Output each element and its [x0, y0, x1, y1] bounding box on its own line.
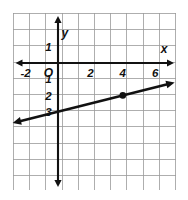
plotted-points [120, 92, 127, 99]
y-tick-label-below-1: 2 [44, 90, 52, 102]
coordinate-plane-svg: -22461123Oxy [0, 0, 188, 200]
origin-label: O [44, 66, 54, 80]
y-tick-label-below-2: 3 [45, 106, 52, 118]
data-point-marker [120, 92, 127, 99]
x-tick-label-3: 6 [152, 67, 159, 79]
y-axis-name: y [60, 26, 69, 40]
x-tick-label-1: 2 [86, 67, 94, 79]
x-tick-label-2: 4 [119, 67, 127, 79]
y-tick-label-above-0: 1 [45, 41, 51, 53]
x-tick-label-0: -2 [20, 67, 31, 79]
x-axis-name: x [160, 42, 169, 56]
graph-figure: -22461123Oxy [0, 0, 188, 200]
